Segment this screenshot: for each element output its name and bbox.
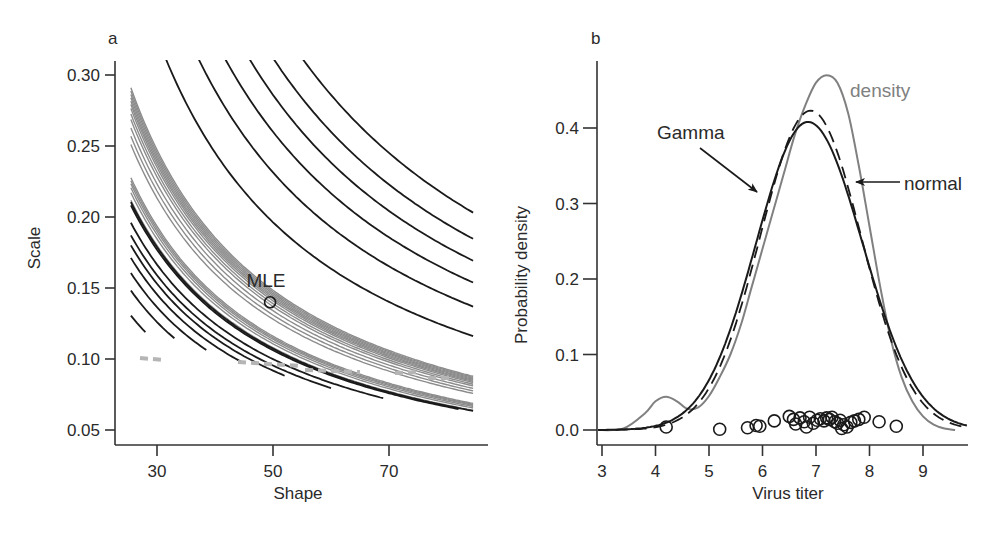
density-label: density [850, 80, 911, 101]
panel-b-curves [597, 75, 967, 430]
contour-line-grey [131, 120, 473, 386]
gamma-label: Gamma [657, 122, 725, 143]
y-tick-label: 0.20 [67, 208, 100, 227]
x-tick-label: 50 [264, 462, 283, 481]
panel-a-letter: a [108, 29, 118, 48]
panel-a-y-axis-title: Scale [25, 227, 44, 270]
panel-a: a 0.050.100.150.200.250.30 305070 Shape … [25, 0, 488, 503]
x-tick-label: 70 [380, 462, 399, 481]
y-tick-label: 0.15 [67, 279, 100, 298]
y-tick-label: 0.10 [67, 350, 100, 369]
contour-line-black [131, 0, 473, 213]
y-tick-label: 0.1 [555, 346, 579, 365]
panel-b-points [660, 410, 902, 435]
observation-point [742, 422, 754, 434]
contour-line-black [131, 273, 206, 350]
y-tick-label: 0.4 [555, 119, 579, 138]
panel-b-y-axis-title: Probability density [512, 206, 531, 344]
gamma-arrow [700, 148, 757, 192]
panel-b-x-ticks: 3456789 [597, 445, 927, 481]
x-tick-label: 4 [651, 462, 660, 481]
contour-line-black [131, 316, 146, 333]
contour-line-black [131, 0, 473, 336]
y-tick-label: 0.30 [67, 66, 100, 85]
y-tick-label: 0.05 [67, 421, 100, 440]
panel-a-y-ticks: 0.050.100.150.200.250.30 [67, 66, 115, 440]
y-tick-label: 0.3 [555, 195, 579, 214]
observation-point [890, 420, 902, 432]
contour-line-black [131, 245, 285, 375]
x-tick-label: 5 [704, 462, 713, 481]
gamma-curve [597, 122, 967, 430]
panel-b-letter: b [591, 29, 600, 48]
y-tick-label: 0.25 [67, 137, 100, 156]
contour-line-grey [131, 178, 473, 404]
contour-line-grey [131, 105, 473, 382]
panel-b: b 0.00.10.20.30.4 3456789 Virus titer Pr… [512, 29, 968, 503]
contour-line-grey [131, 108, 473, 382]
x-tick-label: 8 [865, 462, 874, 481]
normal-label: normal [904, 173, 962, 194]
x-tick-label: 7 [811, 462, 820, 481]
panel-a-x-ticks: 305070 [148, 445, 399, 481]
contour-line-grey [131, 101, 473, 380]
panel-b-x-axis-title: Virus titer [752, 484, 824, 503]
panel-a-contours [131, 0, 473, 411]
contour-line-grey [131, 128, 473, 389]
contour-line-grey [131, 91, 473, 377]
contour-line-black [131, 0, 473, 283]
panel-b-y-ticks: 0.00.10.20.30.4 [555, 119, 597, 440]
contour-line-black [131, 0, 473, 261]
x-tick-label: 6 [758, 462, 767, 481]
x-tick-label: 30 [148, 462, 167, 481]
x-tick-label: 3 [597, 462, 606, 481]
figure: a 0.050.100.150.200.250.30 305070 Shape … [0, 0, 992, 551]
x-tick-label: 9 [918, 462, 927, 481]
observation-point [873, 416, 885, 428]
contour-line-grey [131, 114, 473, 384]
panel-a-x-axis-title: Shape [273, 484, 322, 503]
contour-line-grey [131, 188, 473, 407]
observation-point [768, 415, 780, 427]
contour-line-grey [131, 98, 473, 380]
density-curve [597, 75, 956, 430]
y-tick-label: 0.2 [555, 270, 579, 289]
observation-point [714, 423, 726, 435]
y-tick-label: 0.0 [555, 421, 579, 440]
mle-label: MLE [246, 270, 285, 291]
